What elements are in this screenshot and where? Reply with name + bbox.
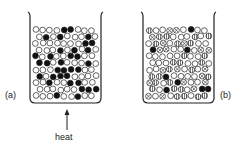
particles-b <box>146 26 212 99</box>
beaker-a <box>28 12 103 103</box>
diagram-canvas <box>0 0 242 154</box>
panel-b-label: (b) <box>220 91 231 100</box>
heat-arrow-icon <box>65 109 70 130</box>
panel-a-label: (a) <box>5 91 16 100</box>
particles-a <box>32 27 99 100</box>
heat-label: heat <box>55 133 73 142</box>
beaker-b <box>141 12 216 103</box>
